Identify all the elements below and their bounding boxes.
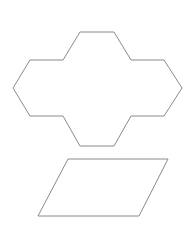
parallelogram-shape	[38, 159, 168, 216]
cross-hexagon-shape	[13, 32, 182, 146]
diagram-canvas	[0, 0, 193, 232]
